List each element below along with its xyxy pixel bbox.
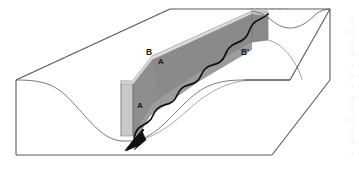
label-section-b-prime: B' — [241, 47, 249, 57]
label-section-a-front: A — [137, 101, 143, 110]
label-section-a-top: A — [158, 57, 164, 66]
label-section-b: B — [146, 47, 152, 57]
block-diagram-figure: B B' A A — [0, 0, 359, 170]
block-diagram-svg: B B' A A — [0, 0, 359, 170]
